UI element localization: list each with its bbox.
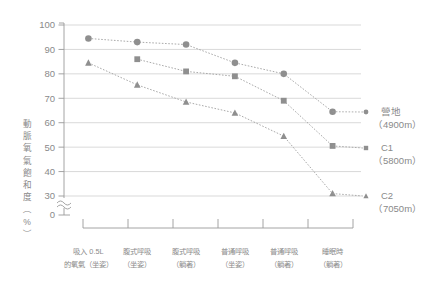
data-point-C1-1 bbox=[134, 56, 140, 62]
x-category-label-6-line-2: （躺著） bbox=[319, 260, 347, 269]
x-category-label-2-line-1: 腹式呼吸 bbox=[123, 247, 152, 256]
y-axis-title-char-4: 飽 bbox=[23, 167, 32, 178]
data-point-營地-0 bbox=[85, 35, 92, 42]
x-category-label-1-line-1: 吸入 0.5L bbox=[73, 247, 103, 256]
x-category-label-5-line-2: （躺著） bbox=[270, 260, 298, 269]
y-axis-title-char-7: （ bbox=[22, 205, 32, 214]
legend-item-name-1: 營地 bbox=[381, 106, 401, 117]
y-axis-break-icon bbox=[57, 201, 71, 209]
y-tick-label-30: 30 bbox=[44, 190, 55, 201]
y-tick-label-40: 40 bbox=[44, 166, 55, 177]
chart-container: 100908070605040300 動脈氧氣飽和度（%） 營地（4900m）C… bbox=[0, 0, 431, 291]
axis-break-squiggle-upper bbox=[57, 201, 71, 205]
y-axis-title-char-1: 脈 bbox=[23, 130, 32, 141]
x-category-label-2-line-2: （坐姿） bbox=[123, 260, 151, 269]
x-category-label-5-line-1: 普通呼吸 bbox=[270, 247, 299, 256]
y-tick-label-50: 50 bbox=[44, 142, 55, 153]
data-point-營地-4 bbox=[280, 71, 287, 78]
data-point-營地-3 bbox=[232, 60, 239, 67]
data-point-C1-2 bbox=[183, 69, 189, 75]
legend-item-name-2: C1 bbox=[381, 142, 393, 153]
y-tick-label-80: 80 bbox=[44, 68, 55, 79]
data-point-C1-4 bbox=[281, 98, 287, 104]
y-axis-title-char-2: 氧 bbox=[23, 142, 32, 153]
x-category-label-3-line-1: 腹式呼吸 bbox=[172, 247, 201, 256]
series-line-2 bbox=[137, 59, 332, 146]
x-category-label-6-line-1: 睡眠時 bbox=[322, 247, 344, 256]
legend-circle-marker-icon bbox=[364, 110, 369, 115]
legend-item-name-3: C2 bbox=[381, 190, 393, 201]
y-axis-title-char-0: 動 bbox=[23, 119, 32, 129]
legend: 營地（4900m）C1（5800m）C2（7050m） bbox=[363, 106, 422, 214]
legend-item-altitude-1: （4900m） bbox=[373, 119, 422, 130]
y-tick-label-70: 70 bbox=[44, 93, 55, 104]
y-axis-title-char-8: % bbox=[23, 217, 31, 227]
legend-leader-lines bbox=[333, 112, 363, 196]
data-point-C2-3 bbox=[232, 109, 239, 115]
y-axis-title-char-9: ） bbox=[22, 229, 32, 238]
series-markers-group bbox=[85, 35, 336, 196]
x-axis-tick-marks bbox=[83, 219, 353, 228]
x-axis-category-labels: 吸入 0.5L的氧氣（坐姿）腹式呼吸（坐姿）腹式呼吸（躺著）普通呼吸（坐姿）普通… bbox=[64, 247, 347, 269]
y-tick-label-90: 90 bbox=[44, 44, 55, 55]
legend-item-altitude-2: （5800m） bbox=[373, 155, 422, 166]
y-axis-title: 動脈氧氣飽和度（%） bbox=[22, 119, 32, 238]
legend-square-marker-icon bbox=[364, 146, 368, 150]
data-point-C2-2 bbox=[183, 98, 190, 104]
axis-lines-group bbox=[59, 23, 353, 228]
data-point-營地-2 bbox=[183, 41, 190, 48]
data-point-C2-1 bbox=[134, 81, 141, 87]
data-point-C2-4 bbox=[280, 133, 287, 139]
data-point-C1-3 bbox=[232, 73, 238, 79]
arterial-oxygen-saturation-line-chart: 100908070605040300 動脈氧氣飽和度（%） 營地（4900m）C… bbox=[0, 0, 431, 291]
y-axis-title-char-3: 氣 bbox=[23, 155, 32, 166]
y-axis-title-char-6: 度 bbox=[23, 191, 32, 202]
series-lines-group bbox=[88, 38, 332, 193]
y-tick-label-0: 0 bbox=[50, 209, 55, 220]
data-point-營地-1 bbox=[134, 39, 141, 46]
data-point-C2-5 bbox=[329, 190, 336, 196]
x-category-label-3-line-2: （躺著） bbox=[172, 260, 200, 269]
x-category-label-1-line-2: 的氧氣（坐姿） bbox=[64, 260, 113, 269]
y-axis-tick-labels: 100908070605040300 bbox=[39, 19, 64, 220]
gridlines-group bbox=[64, 25, 361, 196]
x-category-label-4-line-1: 普通呼吸 bbox=[221, 247, 250, 256]
legend-triangle-marker-icon bbox=[363, 193, 368, 198]
x-category-label-4-line-2: （坐姿） bbox=[221, 260, 249, 269]
data-point-C2-0 bbox=[85, 59, 92, 65]
series-line-3 bbox=[88, 63, 332, 194]
legend-item-altitude-3: （7050m） bbox=[373, 203, 422, 214]
y-axis-title-char-5: 和 bbox=[23, 180, 32, 190]
y-tick-label-60: 60 bbox=[44, 117, 55, 128]
y-tick-label-100: 100 bbox=[39, 19, 55, 30]
